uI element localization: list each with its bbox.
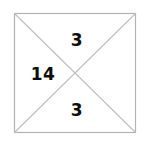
label-left-triangle: 14 [31,66,56,83]
figure-canvas: 3 14 3 [0,0,150,145]
label-top-triangle: 3 [71,32,83,49]
square-diagram-svg [0,0,150,145]
label-bottom-triangle: 3 [71,102,83,119]
